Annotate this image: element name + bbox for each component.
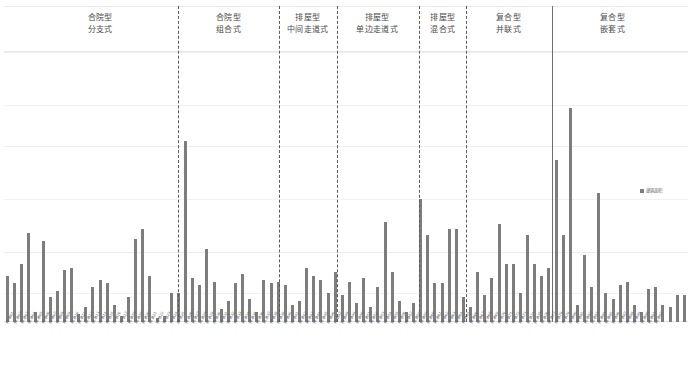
plot-area <box>4 52 688 322</box>
group-label: 排屋型中间走道式 <box>287 12 329 35</box>
group-label-line2: 并联式 <box>496 24 521 36</box>
group-label-line1: 合院型 <box>216 12 241 24</box>
bar <box>683 295 686 322</box>
group-separator <box>552 6 553 322</box>
chart-legend[interactable]: 建筑面积 <box>640 188 662 193</box>
group-label-line1: 合院型 <box>88 12 113 24</box>
group-separator <box>279 6 280 322</box>
group-label-line2: 嵌套式 <box>600 24 625 36</box>
group-separator <box>178 6 179 322</box>
group-label-line1: 排屋型 <box>430 12 455 24</box>
bar <box>569 108 572 322</box>
group-label-line2: 混合式 <box>430 24 455 36</box>
group-separator <box>419 6 420 322</box>
bar <box>526 235 529 322</box>
bar <box>455 229 458 322</box>
group-label-line1: 复合型 <box>496 12 521 24</box>
bar <box>134 239 137 322</box>
bar <box>184 141 187 322</box>
group-label-line2: 单边走道式 <box>356 24 398 36</box>
group-label: 合院型组合式 <box>216 12 241 35</box>
group-label-line1: 复合型 <box>600 12 625 24</box>
bar-chart: 合院型分支式合院型组合式排屋型中间走道式排屋型单边走道式排屋型混合式复合型并联式… <box>0 0 692 383</box>
group-label-line1: 排屋型 <box>356 12 398 24</box>
bar <box>597 193 600 322</box>
bar <box>562 235 565 322</box>
bar <box>419 199 422 322</box>
bar <box>498 224 501 322</box>
group-label-line1: 排屋型 <box>287 12 329 24</box>
bar-series-container <box>4 52 688 322</box>
legend-label: 建筑面积 <box>646 188 662 193</box>
group-label: 排屋型单边走道式 <box>356 12 398 35</box>
group-label: 排屋型混合式 <box>430 12 455 35</box>
bar <box>426 235 429 322</box>
group-label: 合院型分支式 <box>88 12 113 35</box>
group-label: 复合型嵌套式 <box>600 12 625 35</box>
bar <box>42 241 45 322</box>
group-label: 复合型并联式 <box>496 12 521 35</box>
legend-square-marker-icon <box>640 189 644 193</box>
group-separator <box>337 6 338 322</box>
bar <box>676 295 679 322</box>
group-label-line2: 分支式 <box>88 24 113 36</box>
bar <box>141 229 144 322</box>
group-label-line2: 中间走道式 <box>287 24 329 36</box>
header-top-rule <box>4 6 688 7</box>
bar <box>669 307 672 322</box>
bar <box>27 233 30 322</box>
group-separator <box>466 6 467 322</box>
bar <box>555 160 558 322</box>
x-axis-tick-container: 样本01样本02样本03样本04样本05样本06样本07样本08样本09样本10… <box>4 322 688 383</box>
bar <box>448 229 451 322</box>
bar <box>384 222 387 322</box>
group-header-band: 合院型分支式合院型组合式排屋型中间走道式排屋型单边走道式排屋型混合式复合型并联式… <box>0 6 692 52</box>
group-label-line2: 组合式 <box>216 24 241 36</box>
